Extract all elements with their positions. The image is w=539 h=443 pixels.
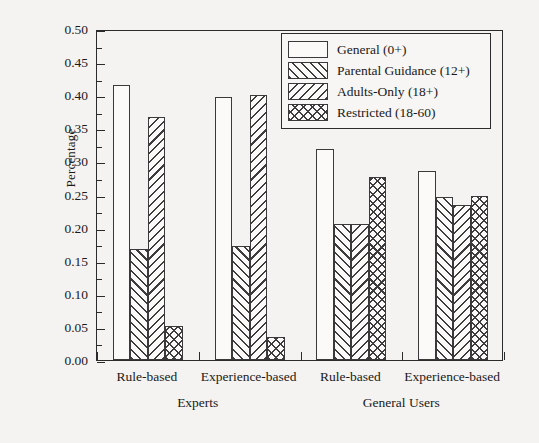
y-tick-major	[97, 64, 105, 65]
y-tick-major	[97, 263, 105, 264]
x-tick-major	[402, 352, 403, 360]
bar	[113, 85, 131, 360]
y-tick-label: 0.20	[44, 221, 88, 237]
bar	[418, 171, 436, 360]
x-tick-major	[504, 352, 505, 360]
y-tick-label: 0.00	[44, 353, 88, 369]
y-tick-major	[97, 130, 105, 131]
y-tick-major	[97, 296, 105, 297]
x-axis-category-labels: Rule-basedExperience-basedRule-basedExpe…	[96, 369, 503, 391]
legend-item[interactable]: General (0+)	[288, 39, 483, 60]
y-tick-label: 0.15	[44, 254, 88, 270]
y-tick-major	[97, 329, 105, 330]
x-category-label: Rule-based	[320, 369, 381, 385]
bar	[165, 326, 183, 360]
y-tick-minor	[97, 48, 102, 49]
legend-swatch-icon	[288, 62, 328, 79]
bar	[215, 97, 233, 360]
y-tick-major	[97, 197, 105, 198]
y-tick-minor	[97, 180, 102, 181]
y-tick-minor	[97, 147, 102, 148]
legend-label: Adults-Only (18+)	[337, 84, 438, 100]
y-tick-label: 0.05	[44, 320, 88, 336]
x-tick-major	[199, 352, 200, 360]
legend-item[interactable]: Restricted (18-60)	[288, 102, 483, 123]
y-tick-minor	[97, 114, 102, 115]
y-tick-label: 0.35	[44, 121, 88, 137]
y-tick-minor	[97, 246, 102, 247]
y-tick-label: 0.10	[44, 287, 88, 303]
chart-legend: General (0+)Parental Guidance (12+)Adult…	[281, 33, 491, 129]
y-tick-label: 0.45	[44, 55, 88, 71]
legend-swatch-icon	[288, 104, 328, 121]
legend-item[interactable]: Parental Guidance (12+)	[288, 60, 483, 81]
x-group-label: Experts	[177, 395, 218, 411]
legend-label: Parental Guidance (12+)	[337, 63, 470, 79]
y-tick-label: 0.30	[44, 154, 88, 170]
y-tick-minor	[97, 312, 102, 313]
legend-swatch-icon	[288, 83, 328, 100]
bar	[369, 177, 387, 360]
legend-label: General (0+)	[337, 42, 406, 58]
y-tick-label: 0.25	[44, 188, 88, 204]
x-group-label: General Users	[363, 395, 440, 411]
legend-swatch-icon	[288, 41, 328, 58]
legend-item[interactable]: Adults-Only (18+)	[288, 81, 483, 102]
y-tick-minor	[97, 279, 102, 280]
x-tick-major	[97, 352, 98, 360]
y-tick-minor	[97, 213, 102, 214]
x-category-label: Experience-based	[404, 369, 500, 385]
x-tick-major	[301, 352, 302, 360]
y-tick-major	[97, 31, 105, 32]
bar	[351, 224, 369, 360]
bar	[334, 224, 352, 360]
x-axis-group-labels: ExpertsGeneral Users	[96, 395, 503, 417]
y-tick-label: 0.50	[44, 22, 88, 38]
y-tick-major	[97, 230, 105, 231]
bar	[250, 95, 268, 360]
bar-chart-figure: Percentage 0.000.050.100.150.200.250.300…	[0, 0, 539, 443]
x-category-label: Experience-based	[201, 369, 297, 385]
bar	[267, 337, 285, 360]
bar	[436, 197, 454, 360]
bar	[316, 149, 334, 360]
y-tick-major	[97, 163, 105, 164]
y-tick-minor	[97, 81, 102, 82]
bar	[471, 196, 489, 360]
y-tick-major	[97, 97, 105, 98]
bar	[232, 246, 250, 360]
y-tick-major	[97, 362, 105, 363]
y-axis-tick-labels: 0.000.050.100.150.200.250.300.350.400.45…	[40, 30, 88, 361]
y-tick-minor	[97, 345, 102, 346]
x-category-label: Rule-based	[117, 369, 178, 385]
bar	[453, 205, 471, 360]
legend-label: Restricted (18-60)	[337, 105, 436, 121]
y-tick-label: 0.40	[44, 88, 88, 104]
bar	[130, 249, 148, 360]
bar	[148, 117, 166, 360]
